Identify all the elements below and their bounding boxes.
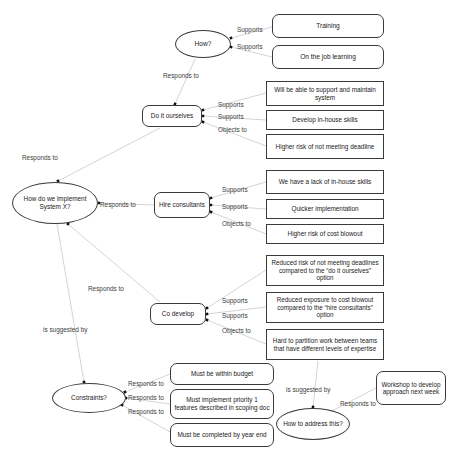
node-label-partition: Hard to partition work between teams tha… [267, 337, 383, 352]
node-quicker[interactable]: Quicker implementation [266, 199, 384, 219]
node-label-howaddress: How to address this? [280, 420, 346, 428]
node-yearend[interactable]: Must be completed by year end [170, 423, 274, 447]
node-label-training: Training [313, 22, 343, 30]
node-partition[interactable]: Hard to partition work between teams tha… [266, 329, 384, 360]
node-inhouse[interactable]: Develop in-house skills [266, 110, 384, 130]
edge-howaddress-partition [313, 361, 318, 407]
node-label-priority: Must implement priority 1 features descr… [171, 396, 273, 411]
node-label-budget: Must be within budget [188, 370, 256, 378]
edge-label-codev-red2-lbl: Supports [222, 312, 248, 319]
node-budget[interactable]: Must be within budget [170, 363, 274, 385]
edge-label-hire-cost-lbl: Objects to [222, 220, 251, 227]
node-codevelop[interactable]: Co develop [150, 303, 206, 325]
node-label-hire: Hire consultants [156, 201, 208, 209]
node-riskdeadline[interactable]: Higher risk of not meeting deadline [266, 134, 384, 159]
node-hire[interactable]: Hire consultants [154, 192, 210, 218]
node-how[interactable]: How? [175, 30, 231, 58]
node-label-reddeadline: Reduced risk of not meeting deadlines co… [267, 259, 383, 281]
edge-label-central-hire-lbl: Responds to [100, 201, 136, 208]
node-howaddress[interactable]: How to address this? [276, 408, 350, 440]
node-doit[interactable]: Do it ourselves [142, 105, 202, 127]
node-training[interactable]: Training [272, 14, 384, 38]
node-priority[interactable]: Must implement priority 1 features descr… [170, 389, 274, 419]
node-costblowout[interactable]: Higher risk of cost blowout [266, 224, 384, 244]
edge-doit-how [175, 59, 195, 104]
edge-constraints-central [57, 224, 84, 382]
node-label-codevelop: Co develop [159, 310, 197, 318]
edge-label-doit-support-lbl: Supports [218, 101, 244, 108]
node-label-doit: Do it ourselves [148, 112, 196, 120]
node-reddeadline[interactable]: Reduced risk of not meeting deadlines co… [266, 255, 384, 286]
node-central[interactable]: How do we implement System X? [12, 182, 98, 224]
edge-label-hire-quicker-lbl: Supports [222, 203, 248, 210]
edge-label-doit-central-lbl: Responds to [22, 154, 58, 161]
edge-label-how-responds-lbl: Responds to [163, 72, 199, 79]
node-label-central: How do we implement System X? [13, 195, 97, 210]
edge-label-hire-lack-lbl: Supports [222, 186, 248, 193]
edge-central-doit [58, 128, 160, 181]
edge-label-how-training-lbl: Supports [237, 26, 263, 33]
node-label-onjob: On the job learning [297, 53, 359, 61]
diagram-canvas: How?TrainingOn the job learningDo it our… [0, 0, 449, 456]
node-label-lackskills: We have a lack of in-house skills [276, 178, 375, 186]
node-constraints[interactable]: Constraints? [52, 383, 126, 413]
edge-label-constraints-budget-lbl: Responds to [128, 380, 164, 387]
node-label-redcost: Reduced exposure to cost blowout compare… [267, 296, 383, 318]
node-label-yearend: Must be completed by year end [174, 431, 269, 439]
edge-label-doit-inhouse-lbl: Supports [218, 113, 244, 120]
node-onjob[interactable]: On the job learning [272, 45, 384, 69]
node-workshop[interactable]: Workshop to develop approach next week [376, 371, 446, 405]
edge-label-codev-partition-lbl: Objects to [222, 327, 251, 334]
node-support[interactable]: Will be able to support and maintain sys… [266, 81, 384, 106]
edge-label-constraints-prio-lbl: Responds to [128, 394, 164, 401]
edge-label-central-codev-lbl: Responds to [88, 285, 124, 292]
edge-label-constraints-year-lbl: Responds to [128, 408, 164, 415]
edge-label-how-onjob-lbl: Supports [237, 43, 263, 50]
node-redcost[interactable]: Reduced exposure to cost blowout compare… [266, 292, 384, 323]
node-label-constraints: Constraints? [68, 394, 110, 402]
node-label-quicker: Quicker implementation [288, 205, 361, 213]
node-lackskills[interactable]: We have a lack of in-house skills [266, 170, 384, 194]
node-label-inhouse: Develop in-house skills [289, 116, 360, 124]
edge-label-constraints-central-lbl: is suggested by [43, 326, 87, 333]
node-label-riskdeadline: Higher risk of not meeting deadline [273, 143, 378, 151]
node-label-how: How? [192, 40, 215, 48]
edge-label-how-workshop-lbl: Responds to [340, 400, 376, 407]
edge-label-codev-red1-lbl: Supports [222, 297, 248, 304]
node-label-costblowout: Higher risk of cost blowout [285, 230, 366, 238]
node-label-workshop: Workshop to develop approach next week [377, 381, 445, 396]
edge-label-doit-risk-lbl: Objects to [218, 126, 247, 133]
edge-label-partition-how-lbl: is suggested by [286, 386, 330, 393]
node-label-support: Will be able to support and maintain sys… [267, 86, 383, 101]
